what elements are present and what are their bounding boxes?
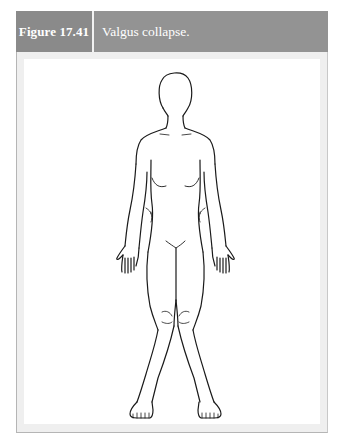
- figure-header: Figure 17.41 Valgus collapse.: [16, 11, 328, 52]
- female-body-valgus-illustration-icon: [24, 59, 320, 424]
- figure-container: Figure 17.41 Valgus collapse.: [16, 11, 328, 433]
- figure-panel: [24, 59, 320, 424]
- figure-label: Figure 17.41: [16, 11, 92, 52]
- figure-caption: Valgus collapse.: [94, 24, 190, 40]
- figure-frame: [16, 52, 328, 433]
